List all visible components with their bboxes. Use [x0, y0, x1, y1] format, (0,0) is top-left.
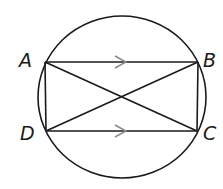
segment-ad [45, 62, 46, 131]
segment-bc [197, 62, 198, 131]
label-point-a: A [19, 51, 32, 70]
label-point-b: B [203, 51, 216, 70]
geometry-figure [0, 0, 223, 189]
label-point-d: D [20, 124, 35, 143]
label-point-c: C [203, 124, 216, 143]
diagram-canvas: A B C D [0, 0, 223, 189]
